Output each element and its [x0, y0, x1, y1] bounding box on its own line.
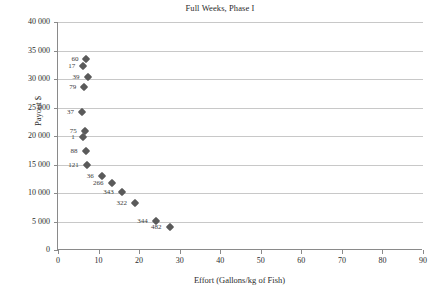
- x-tick-mark: [423, 250, 424, 254]
- x-tick-label: 90: [408, 256, 438, 265]
- y-tick-mark: [54, 222, 58, 223]
- y-tick-mark: [54, 193, 58, 194]
- y-tick-label: 5 000: [0, 217, 50, 226]
- y-tick-mark: [54, 51, 58, 52]
- x-tick-mark: [180, 250, 181, 254]
- data-point-label: 88: [38, 147, 78, 155]
- x-tick-label: 60: [286, 256, 316, 265]
- y-tick-label: 0: [0, 245, 50, 254]
- data-point-marker: [131, 199, 139, 207]
- x-tick-mark: [342, 250, 343, 254]
- gridline: [58, 51, 423, 52]
- data-point-marker: [107, 178, 115, 186]
- x-tick-mark: [301, 250, 302, 254]
- data-point-marker: [80, 83, 88, 91]
- data-point-label: 121: [39, 161, 79, 169]
- data-point-label: 322: [87, 199, 127, 207]
- x-tick-mark: [261, 250, 262, 254]
- data-point-marker: [117, 188, 125, 196]
- chart-title: Full Weeks, Phase I: [0, 3, 440, 13]
- x-tick-label: 30: [165, 256, 195, 265]
- data-point-label: 1: [35, 133, 75, 141]
- y-tick-label: 35 000: [0, 46, 50, 55]
- x-tick-mark: [220, 250, 221, 254]
- x-tick-label: 70: [327, 256, 357, 265]
- x-axis-title: Effort (Gallons/kg of Fish): [57, 275, 422, 285]
- x-tick-label: 80: [367, 256, 397, 265]
- x-tick-label: 50: [246, 256, 276, 265]
- data-point-marker: [79, 62, 87, 70]
- data-point-label: 37: [34, 108, 74, 116]
- data-point-marker: [83, 73, 91, 81]
- y-tick-label: 40 000: [0, 17, 50, 26]
- data-point-label: 266: [64, 179, 104, 187]
- data-point-marker: [78, 108, 86, 116]
- x-tick-label: 10: [84, 256, 114, 265]
- x-tick-mark: [382, 250, 383, 254]
- data-point-label: 17: [35, 62, 75, 70]
- gridline: [58, 165, 423, 166]
- gridline: [58, 79, 423, 80]
- x-tick-mark: [58, 250, 59, 254]
- gridline: [58, 22, 423, 23]
- x-tick-label: 40: [205, 256, 235, 265]
- scatter-chart: Full Weeks, Phase I Payout $ Effort (Gal…: [0, 0, 440, 297]
- gridline: [58, 136, 423, 137]
- y-tick-label: 10 000: [0, 188, 50, 197]
- x-tick-mark: [99, 250, 100, 254]
- data-point-marker: [83, 160, 91, 168]
- data-point-label: 79: [36, 83, 76, 91]
- data-point-label: 482: [122, 223, 162, 231]
- plot-area: 05 00010 00015 00020 00025 00030 00035 0…: [57, 22, 422, 250]
- data-point-label: 39: [40, 73, 80, 81]
- x-tick-label: 20: [124, 256, 154, 265]
- data-point-marker: [165, 223, 173, 231]
- y-tick-mark: [54, 22, 58, 23]
- data-point-label: 343: [74, 188, 114, 196]
- gridline: [58, 108, 423, 109]
- x-tick-mark: [139, 250, 140, 254]
- data-point-marker: [81, 147, 89, 155]
- x-tick-label: 0: [43, 256, 73, 265]
